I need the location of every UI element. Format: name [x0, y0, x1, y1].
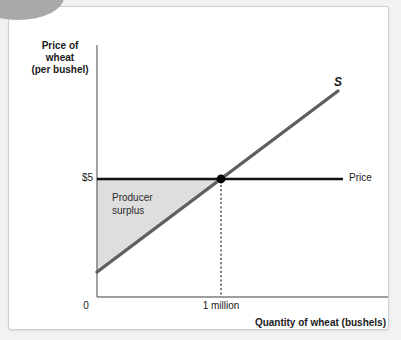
equilibrium-point-marker: [217, 175, 226, 184]
supply-curve-label: S: [334, 76, 342, 90]
page-root: Price of wheat (per bushel) $5 0 1 milli…: [0, 0, 401, 340]
figure-card: Price of wheat (per bushel) $5 0 1 milli…: [8, 6, 389, 330]
price-line-label: Price: [349, 172, 372, 184]
x-axis-title: Quantity of wheat (bushels): [214, 317, 386, 329]
producer-surplus-label: Producer surplus: [112, 192, 153, 217]
y-axis-title: Price of wheat (per bushel): [21, 40, 99, 77]
producer-surplus-figure: Price of wheat (per bushel) $5 0 1 milli…: [9, 7, 389, 330]
x-axis-tick-label-quantity: 1 million: [191, 300, 251, 312]
y-axis-tick-label-price: $5: [71, 172, 93, 184]
x-axis-tick-label-origin: 0: [79, 300, 93, 312]
